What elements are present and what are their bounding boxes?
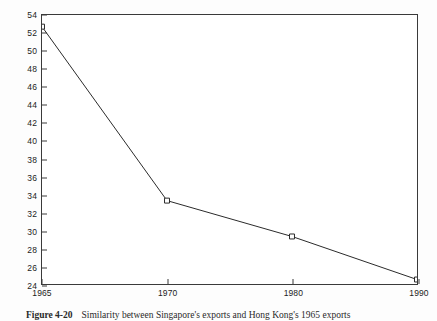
x-axis-tick-label: 1965 xyxy=(32,288,51,298)
x-axis-tick-mark xyxy=(419,279,420,284)
y-axis-tick-label: 42 xyxy=(27,118,42,128)
y-axis-tick-label: 32 xyxy=(27,209,42,219)
y-axis-tick-label: 40 xyxy=(27,136,42,146)
y-axis-tick-label: 36 xyxy=(27,173,42,183)
data-point-marker xyxy=(42,24,44,29)
figure-caption-text: Similarity between Singapore's exports a… xyxy=(82,310,351,320)
x-axis-tick-label: 1980 xyxy=(284,288,303,298)
y-axis-tick-mark xyxy=(42,286,47,287)
figure-container: 24262830323436384042444648505254 1965197… xyxy=(0,0,437,321)
plot-frame: 24262830323436384042444648505254 1965197… xyxy=(41,14,418,285)
y-axis-tick-label: 26 xyxy=(27,263,42,273)
y-axis-tick-label: 50 xyxy=(27,46,42,56)
line-series-canvas xyxy=(42,15,417,284)
y-axis-tick-label: 54 xyxy=(27,10,42,20)
y-axis-tick-label: 48 xyxy=(27,64,42,74)
y-axis-tick-label: 52 xyxy=(27,28,42,38)
figure-caption-label: Figure 4-20 xyxy=(26,310,73,320)
y-axis-tick-label: 44 xyxy=(27,100,42,110)
y-axis-tick-label: 28 xyxy=(27,245,42,255)
data-point-marker xyxy=(415,277,417,282)
data-point-marker xyxy=(165,198,170,203)
y-axis-tick-label: 46 xyxy=(27,82,42,92)
y-axis-tick-label: 38 xyxy=(27,155,42,165)
figure-caption: Figure 4-20Similarity between Singapore'… xyxy=(26,309,418,321)
y-axis-tick-label: 30 xyxy=(27,227,42,237)
x-axis-tick-label: 1990 xyxy=(409,288,428,298)
y-axis-tick-label: 34 xyxy=(27,191,42,201)
series-line xyxy=(42,27,417,280)
x-axis-tick-label: 1970 xyxy=(158,288,177,298)
data-point-marker xyxy=(290,234,295,239)
